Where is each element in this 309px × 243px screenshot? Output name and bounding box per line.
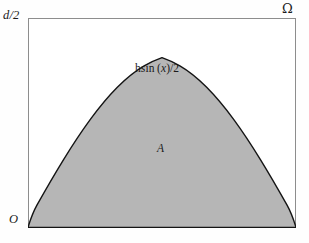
domain-omega-label: Ω — [282, 2, 293, 15]
y-axis-top-label: d/2 — [3, 9, 20, 22]
origin-label: O — [9, 213, 18, 226]
region-area-label: A — [157, 143, 164, 155]
curve-label-suffix: )/2 — [166, 62, 179, 74]
curve-label-prefix: hsin ( — [135, 62, 161, 74]
figure-container: d/2 Ω O hsin (x)/2 A — [0, 0, 309, 243]
sine-arch-plot — [28, 18, 296, 228]
curve-equation-label: hsin (x)/2 — [135, 63, 179, 75]
